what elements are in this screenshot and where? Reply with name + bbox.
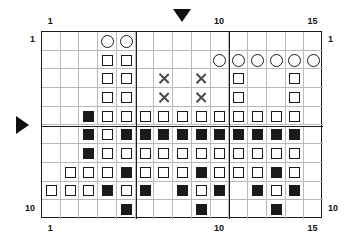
grid-cell-r2-c2[interactable] [61, 51, 80, 70]
grid-cell-r4-c1[interactable] [42, 88, 61, 107]
symbol-open-square-r5-c9 [196, 111, 207, 122]
symbol-open-square-r5-c7 [158, 111, 169, 122]
symbol-circle-r2-c10 [213, 54, 226, 67]
grid-cell-r2-c9[interactable] [192, 51, 211, 70]
symbol-open-square-r9-c3 [83, 185, 94, 196]
grid-cell-r2-c7[interactable] [154, 51, 173, 70]
grid-cell-r10-c11[interactable] [229, 200, 248, 219]
symbol-open-square-r2-c5 [121, 55, 132, 66]
grid-cell-r8-c15[interactable] [304, 163, 323, 182]
symbol-open-square-r7-c11 [233, 148, 244, 159]
grid-cell-r10-c14[interactable] [286, 200, 305, 219]
grid-cell-r7-c2[interactable] [61, 144, 80, 163]
symbol-open-square-r5-c4 [102, 111, 113, 122]
symbol-open-square-r5-c8 [177, 111, 188, 122]
symbol-filled-square-r6-c10 [214, 129, 225, 140]
grid-cell-r4-c2[interactable] [61, 88, 80, 107]
grid-cell-r6-c2[interactable] [61, 126, 80, 145]
triangle-right-icon [16, 116, 29, 134]
grid-cell-r3-c10[interactable] [211, 69, 230, 88]
grid-cell-r1-c11[interactable] [229, 32, 248, 51]
grid-cell-r7-c1[interactable] [42, 144, 61, 163]
symbol-filled-square-r6-c7 [158, 129, 169, 140]
axis-right-tick-10: 10 [328, 204, 346, 213]
symbol-filled-square-r8-c9 [196, 167, 207, 178]
grid-cell-r9-c15[interactable] [304, 182, 323, 201]
grid-cell-r10-c4[interactable] [98, 200, 117, 219]
grid-cell-r3-c3[interactable] [79, 69, 98, 88]
grid-cell-r9-c7[interactable] [154, 182, 173, 201]
grid-cell-r2-c1[interactable] [42, 51, 61, 70]
grid-cell-r6-c1[interactable] [42, 126, 61, 145]
grid-cell-r10-c12[interactable] [248, 200, 267, 219]
grid-cell-r8-c1[interactable] [42, 163, 61, 182]
grid-cell-r4-c13[interactable] [267, 88, 286, 107]
symbol-filled-square-r9-c14 [289, 185, 300, 196]
grid-cell-r3-c6[interactable] [136, 69, 155, 88]
grid-cell-r5-c2[interactable] [61, 107, 80, 126]
grid-cell-r2-c6[interactable] [136, 51, 155, 70]
grid-cell-r10-c3[interactable] [79, 200, 98, 219]
symbol-open-square-r9-c13 [271, 185, 282, 196]
symbol-circle-r2-c14 [288, 54, 301, 67]
grid-cell-r10-c6[interactable] [136, 200, 155, 219]
grid-cell-r1-c13[interactable] [267, 32, 286, 51]
grid-cell-r2-c3[interactable] [79, 51, 98, 70]
grid-cell-r1-c7[interactable] [154, 32, 173, 51]
grid-cell-r6-c15[interactable] [304, 126, 323, 145]
chart-grid[interactable] [41, 31, 322, 218]
axis-top-tick-15: 15 [303, 17, 323, 26]
symbol-open-square-r7-c10 [214, 148, 225, 159]
symbol-open-square-r7-c4 [102, 148, 113, 159]
grid-cell-r3-c15[interactable] [304, 69, 323, 88]
grid-cell-r1-c8[interactable] [173, 32, 192, 51]
grid-cell-r4-c6[interactable] [136, 88, 155, 107]
grid-cell-r1-c9[interactable] [192, 32, 211, 51]
symbol-open-square-r5-c11 [233, 111, 244, 122]
symbol-open-square-r5-c12 [252, 111, 263, 122]
heavy-hline-after-row-5 [42, 126, 323, 127]
grid-cell-r2-c8[interactable] [173, 51, 192, 70]
grid-cell-r4-c8[interactable] [173, 88, 192, 107]
symbol-filled-square-r9-c12 [252, 185, 263, 196]
symbol-open-square-r6-c4 [102, 129, 113, 140]
grid-cell-r1-c3[interactable] [79, 32, 98, 51]
grid-cell-r3-c8[interactable] [173, 69, 192, 88]
grid-cell-r1-c1[interactable] [42, 32, 61, 51]
grid-cell-r10-c1[interactable] [42, 200, 61, 219]
grid-cell-r3-c2[interactable] [61, 69, 80, 88]
grid-cell-r4-c3[interactable] [79, 88, 98, 107]
grid-cell-r1-c12[interactable] [248, 32, 267, 51]
symbol-filled-square-r8-c5 [121, 167, 132, 178]
triangle-down-icon [173, 9, 191, 22]
grid-cell-r10-c7[interactable] [154, 200, 173, 219]
grid-cell-r10-c15[interactable] [304, 200, 323, 219]
grid-cell-r1-c2[interactable] [61, 32, 80, 51]
grid-cell-r4-c12[interactable] [248, 88, 267, 107]
symbol-open-square-r9-c9 [196, 185, 207, 196]
grid-cell-r3-c12[interactable] [248, 69, 267, 88]
grid-cell-r5-c15[interactable] [304, 107, 323, 126]
grid-cell-r3-c1[interactable] [42, 69, 61, 88]
grid-cell-r5-c1[interactable] [42, 107, 61, 126]
grid-cell-r10-c8[interactable] [173, 200, 192, 219]
grid-cell-r4-c10[interactable] [211, 88, 230, 107]
grid-cell-r1-c6[interactable] [136, 32, 155, 51]
grid-cell-r1-c14[interactable] [286, 32, 305, 51]
grid-cell-r7-c15[interactable] [304, 144, 323, 163]
symbol-open-square-r9-c5 [121, 185, 132, 196]
symbol-filled-square-r6-c12 [252, 129, 263, 140]
grid-cell-r1-c10[interactable] [211, 32, 230, 51]
grid-cell-r9-c11[interactable] [229, 182, 248, 201]
grid-cell-r10-c10[interactable] [211, 200, 230, 219]
symbol-open-square-r8-c10 [214, 167, 225, 178]
symbol-open-square-r7-c14 [289, 148, 300, 159]
grid-cell-r4-c15[interactable] [304, 88, 323, 107]
grid-cell-r1-c15[interactable] [304, 32, 323, 51]
symbol-circle-r2-c12 [251, 54, 264, 67]
grid-cell-r10-c2[interactable] [61, 200, 80, 219]
symbol-filled-square-r10-c13 [271, 204, 282, 215]
symbol-open-square-r8-c6 [140, 167, 151, 178]
grid-cell-r3-c13[interactable] [267, 69, 286, 88]
axis-left-tick-1: 1 [17, 35, 35, 44]
